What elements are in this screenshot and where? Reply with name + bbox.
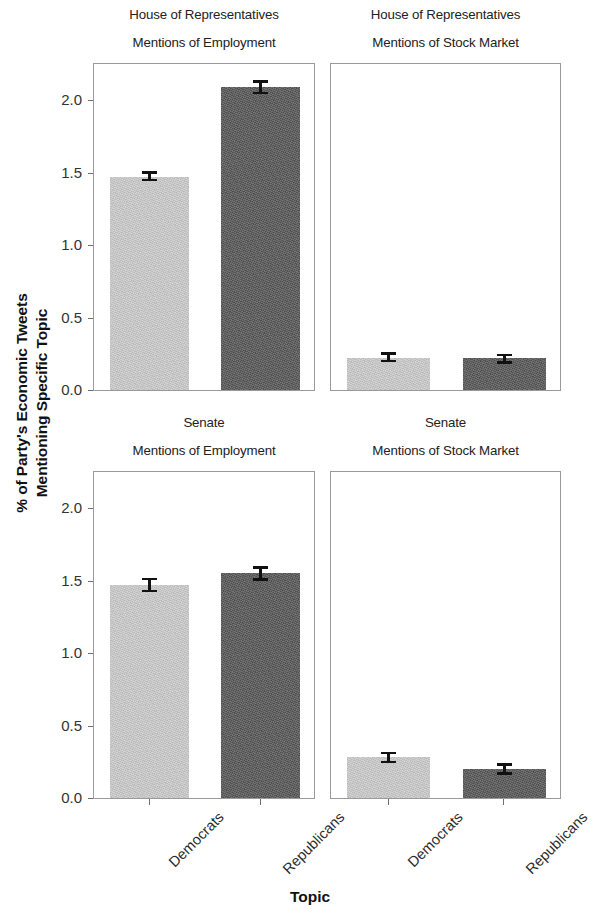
y-tick-mark <box>88 726 93 727</box>
y-axis-title-line1: % of Party's Economic Tweets <box>12 293 32 512</box>
panel-strip-row-house-of-representatives-1: House of Representatives <box>330 7 561 22</box>
error-bar-democrats <box>148 171 151 181</box>
x-tick-label-democrats: Democrats <box>404 809 465 870</box>
bar-republicans <box>221 573 301 798</box>
panel-strip-row-senate-0: Senate <box>93 415 315 430</box>
panel-strip-col-mentions-of-stock-market-0: Mentions of Stock Market <box>330 35 561 50</box>
y-tick-label-2.0: 2.0 <box>33 91 82 108</box>
panel-strip-row-senate-1: Senate <box>330 415 561 430</box>
y-tick-mark <box>88 581 93 582</box>
y-tick-mark <box>88 100 93 101</box>
x-tick-label-republicans: Republicans <box>523 809 591 877</box>
bar-republicans <box>221 87 301 390</box>
x-axis-title: Topic <box>90 888 530 906</box>
y-tick-mark <box>88 508 93 509</box>
y-tick-label-0.5: 0.5 <box>33 717 82 734</box>
y-tick-mark <box>88 798 93 799</box>
x-tick-mark <box>388 799 389 805</box>
panel-senate-mentions-of-stock-market <box>330 471 561 799</box>
panel-senate-mentions-of-employment <box>93 471 315 799</box>
y-axis-title: % of Party's Economic Tweets Mentioning … <box>12 123 52 683</box>
error-bar-republicans <box>503 354 506 364</box>
y-tick-label-1.5: 1.5 <box>33 164 82 181</box>
panel-strip-col-mentions-of-employment-1: Mentions of Employment <box>93 443 315 458</box>
y-axis-title-line2: Mentioning Specific Topic <box>32 309 52 497</box>
y-tick-label-0.0: 0.0 <box>33 789 82 806</box>
error-bar-republicans <box>259 80 262 94</box>
panel-strip-col-mentions-of-employment-0: Mentions of Employment <box>93 35 315 50</box>
x-tick-mark <box>149 799 150 805</box>
y-tick-mark <box>88 245 93 246</box>
error-bar-democrats <box>148 578 151 592</box>
error-bar-republicans <box>259 566 262 580</box>
x-tick-mark <box>260 799 261 805</box>
error-bar-democrats <box>387 352 390 362</box>
x-tick-label-democrats: Democrats <box>165 809 226 870</box>
error-bar-democrats <box>387 752 390 764</box>
y-tick-label-1.5: 1.5 <box>33 572 82 589</box>
y-tick-label-0.0: 0.0 <box>33 381 82 398</box>
y-tick-mark <box>88 390 93 391</box>
y-tick-mark <box>88 653 93 654</box>
y-tick-label-1.0: 1.0 <box>33 236 82 253</box>
y-tick-mark <box>88 318 93 319</box>
y-tick-label-1.0: 1.0 <box>33 644 82 661</box>
y-tick-mark <box>88 173 93 174</box>
panel-strip-col-mentions-of-stock-market-1: Mentions of Stock Market <box>330 443 561 458</box>
y-tick-label-2.0: 2.0 <box>33 499 82 516</box>
bar-democrats <box>110 177 190 390</box>
bar-democrats <box>110 585 190 798</box>
panel-strip-row-house-of-representatives-0: House of Representatives <box>93 7 315 22</box>
bar-democrats <box>347 358 430 390</box>
x-tick-label-republicans: Republicans <box>279 809 347 877</box>
y-tick-label-0.5: 0.5 <box>33 309 82 326</box>
bar-democrats <box>347 757 430 798</box>
panel-house-of-representatives-mentions-of-employment <box>93 63 315 391</box>
x-tick-mark <box>503 799 504 805</box>
error-bar-republicans <box>503 763 506 775</box>
panel-house-of-representatives-mentions-of-stock-market <box>330 63 561 391</box>
